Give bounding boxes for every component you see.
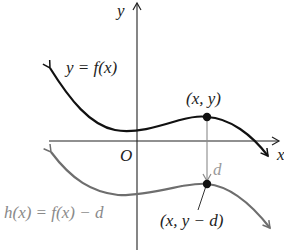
point-h — [203, 180, 211, 188]
point-f-label: (x, y) — [186, 89, 221, 108]
point-label-leader — [198, 186, 206, 210]
point-f — [203, 113, 211, 121]
point-h-label: (x, y − d) — [160, 211, 224, 230]
curve-f-label: y = f(x) — [64, 58, 117, 77]
diagram-canvas: y x O y = f(x) h(x) = f(x) − d (x, y) (x… — [0, 0, 284, 250]
curve-h-label: h(x) = f(x) − d — [4, 203, 104, 222]
curve-f — [50, 68, 268, 156]
shift-label: d — [213, 160, 222, 179]
y-axis-label: y — [115, 1, 125, 20]
origin-label: O — [120, 146, 132, 165]
x-axis-label: x — [276, 145, 284, 164]
